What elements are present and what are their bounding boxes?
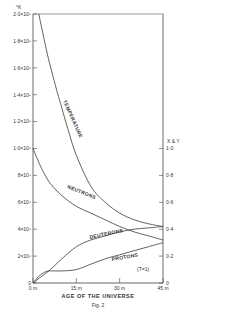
left-tick-label: 6×10⁸ <box>18 199 31 205</box>
chart: 02×10⁸4×10⁸6×10⁸8×10⁸1·0×10⁹1·2×10⁹1·4×1… <box>0 0 226 322</box>
x-tick-label: 45 m <box>157 285 168 291</box>
x-axis-ticks: 0 m15 m30 m45 m <box>29 278 169 291</box>
x-tick-label: 15 m <box>71 285 82 291</box>
curve-protons <box>33 243 163 283</box>
curves <box>33 14 163 283</box>
right-axis-label: X & Y <box>167 138 180 144</box>
left-axis-unit: °K <box>16 4 22 10</box>
x-axis-title: AGE OF THE UNIVERSE <box>62 293 135 299</box>
plot-frame <box>33 14 163 283</box>
left-tick-label: 8×10⁸ <box>18 172 31 178</box>
right-tick-label: 0·6 <box>166 199 173 205</box>
left-tick-label: 2×10⁸ <box>18 253 31 259</box>
curve-neutrons <box>33 149 163 241</box>
annotation-t1: (T=1) <box>137 266 149 272</box>
series-label-protons: PROTONS <box>111 251 139 262</box>
left-tick-label: 1·2×10⁹ <box>13 118 31 124</box>
right-axis-ticks: 00·20·40·60·81·0 <box>159 145 173 285</box>
left-tick-label: 1·0×10⁹ <box>13 145 31 151</box>
left-tick-label: 2·0×10⁹ <box>13 11 31 17</box>
left-tick-label: 1·8×10⁹ <box>13 38 31 44</box>
left-tick-label: 1·4×10⁹ <box>13 92 31 98</box>
right-tick-label: 0·2 <box>166 253 173 259</box>
left-axis-ticks: 02×10⁸4×10⁸6×10⁸8×10⁸1·0×10⁹1·2×10⁹1·4×1… <box>13 11 37 286</box>
series-label-temperature: TEMPERATURE <box>62 99 84 139</box>
x-tick-label: 30 m <box>114 285 125 291</box>
x-tick-label: 0 m <box>29 285 37 291</box>
right-tick-label: 0·4 <box>166 226 173 232</box>
series-label-deuterons: DEUTERONS <box>89 227 124 240</box>
right-tick-label: 1·0 <box>166 145 173 151</box>
left-tick-label: 1·6×10⁹ <box>13 65 31 71</box>
curve-temperature <box>39 14 163 227</box>
series-label-neutrons: NEUTRONS <box>67 183 98 200</box>
left-tick-label: 4×10⁸ <box>18 226 31 232</box>
right-tick-label: 0·8 <box>166 172 173 178</box>
figure-caption: Fig. 2 <box>92 302 105 308</box>
